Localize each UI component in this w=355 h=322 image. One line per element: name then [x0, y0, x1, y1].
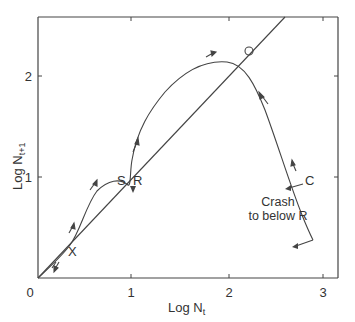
c-arrow-head: [285, 185, 291, 191]
ticks: [38, 17, 338, 278]
point-label-s: S: [117, 173, 126, 188]
y-tick-1: 1: [25, 170, 32, 185]
x-tick-2: 2: [225, 285, 232, 300]
y-tick-2: 2: [25, 69, 32, 84]
point-label-r: R: [133, 173, 142, 188]
population-dynamics-diagram: 0 1 2 3 1 2 Log Nt Log Nt+1: [0, 0, 355, 322]
point-label-c: C: [305, 173, 314, 188]
reproduction-curve: [38, 62, 313, 278]
x-tick-0: 0: [26, 285, 33, 300]
plot-frame: [38, 17, 338, 278]
x-tick-1: 1: [127, 285, 134, 300]
x-axis-title: Log Nt: [168, 300, 206, 317]
replacement-line: [38, 17, 285, 278]
crash-annotation-line2: to below R: [248, 209, 307, 223]
x-tick-3: 3: [319, 285, 326, 300]
direction-arrows: [52, 51, 296, 272]
point-marker-o: [245, 47, 253, 55]
point-label-x: X: [68, 244, 77, 259]
crash-arrowhead: [292, 243, 298, 249]
y-axis-title: Log Nt+1: [10, 143, 27, 190]
crash-annotation-line1: Crash: [261, 195, 294, 209]
crash-hook: [296, 240, 313, 246]
